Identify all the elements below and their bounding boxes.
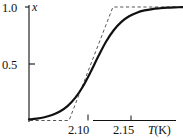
order-parameter-curve (29, 7, 183, 119)
x-tick-label-2-10: 2.10 (68, 124, 89, 137)
x-tick-label-2-15: 2.15 (113, 124, 134, 137)
y-tick-label-1-0: 1.0 (2, 2, 17, 15)
chart-figure: 1.0 0.5 x 2.10 2.15 T(K) (0, 0, 183, 138)
y-axis-title: x (32, 1, 37, 13)
y-tick-label-0-5: 0.5 (2, 59, 17, 72)
x-axis-title-unit: (K) (154, 123, 170, 137)
plot-canvas (0, 0, 183, 138)
tangent-approximation-line (30, 7, 183, 121)
x-axis-title: T(K) (148, 124, 171, 136)
